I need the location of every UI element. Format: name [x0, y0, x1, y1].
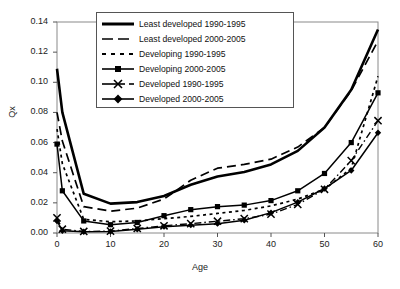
legend-label: Developing 1990-1995 [139, 47, 225, 61]
series-marker-square [60, 188, 65, 193]
x-tick-label: 40 [256, 239, 286, 249]
x-tick-label: 50 [310, 239, 340, 249]
legend-key-solid-diamond [101, 92, 135, 106]
y-tick-label: 0.00 [14, 227, 48, 237]
series-line-5 [57, 133, 378, 232]
series-marker-square [215, 204, 220, 209]
series-marker-square [161, 213, 166, 218]
legend-label: Developing 2000-2005 [139, 62, 225, 76]
y-tick-label: 0.06 [14, 137, 48, 147]
series-marker-square [108, 222, 113, 227]
y-tick-label: 0.02 [14, 197, 48, 207]
x-tick-label: 60 [363, 239, 393, 249]
chart-container: Qx Age 0.000.020.040.060.080.100.120.14 … [0, 0, 400, 289]
x-tick-label: 30 [203, 239, 233, 249]
y-tick-label: 0.12 [14, 46, 48, 56]
legend-item-developing-1990-1995: Developing 1990-1995 [101, 46, 289, 61]
legend-label: Developed 1990-1995 [139, 77, 224, 91]
legend-label: Least developed 2000-2005 [139, 32, 246, 46]
series-marker-square [188, 207, 193, 212]
series-marker-square [375, 90, 380, 95]
chart-legend: Least developed 1990-1995 Least develope… [96, 12, 294, 108]
series-marker-square [242, 203, 247, 208]
y-tick-label: 0.14 [14, 16, 48, 26]
x-tick-label: 0 [42, 239, 72, 249]
y-tick-label: 0.08 [14, 106, 48, 116]
y-tick-label: 0.10 [14, 76, 48, 86]
legend-label: Developed 2000-2005 [139, 92, 224, 106]
x-axis-title: Age [0, 262, 400, 272]
series-marker-diamond [188, 222, 194, 228]
legend-item-developing-2000-2005: Developing 2000-2005 [101, 61, 289, 76]
series-marker-square [349, 140, 354, 145]
series-marker-square [81, 218, 86, 223]
legend-key-dash-dot-x [101, 77, 135, 91]
y-tick-label: 0.04 [14, 167, 48, 177]
legend-item-least-developed-1990-1995: Least developed 1990-1995 [101, 16, 289, 31]
series-marker-square [135, 220, 140, 225]
legend-label: Least developed 1990-1995 [139, 17, 246, 31]
legend-key-solid-square [101, 62, 135, 76]
series-marker-square [54, 141, 59, 146]
legend-key-short-dash [101, 47, 135, 61]
legend-item-developed-2000-2005: Developed 2000-2005 [101, 91, 289, 106]
series-marker-square [268, 198, 273, 203]
series-marker-x [348, 157, 355, 164]
legend-item-least-developed-2000-2005: Least developed 2000-2005 [101, 31, 289, 46]
series-marker-square [295, 188, 300, 193]
series-marker-diamond [241, 217, 247, 223]
series-marker-square [322, 171, 327, 176]
x-tick-label: 20 [149, 239, 179, 249]
x-tick-label: 10 [96, 239, 126, 249]
legend-key-long-dash [101, 32, 135, 46]
legend-key-solid-thick [101, 17, 135, 31]
legend-item-developed-1990-1995: Developed 1990-1995 [101, 76, 289, 91]
